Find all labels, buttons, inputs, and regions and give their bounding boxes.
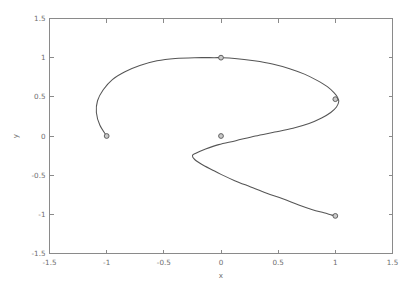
x-tick-label: 0.5 [272,258,283,267]
chart-figure: -1.5-1-0.500.511.5 -1.5-1-0.500.511.5 x … [0,0,415,288]
data-line [96,58,339,216]
y-axis-label: y [11,133,20,138]
x-tick-label: -1 [103,258,110,267]
y-axis-ticks: -1.5-1-0.500.511.5 [31,14,392,258]
y-tick-label: -1 [38,210,45,219]
y-tick-label: 0 [41,132,46,141]
data-point-marker [333,97,338,102]
data-point-marker [104,134,109,139]
data-point-marker [219,55,224,60]
x-axis-label: x [219,271,224,280]
x-tick-label: 0 [219,258,224,267]
y-tick-label: -0.5 [31,171,45,180]
x-tick-label: 1.5 [387,258,398,267]
y-tick-label: 1 [41,53,46,62]
x-tick-label: 1 [333,258,338,267]
data-point-marker [219,134,224,139]
data-markers-group [104,55,337,218]
data-point-marker [333,214,338,219]
plot-canvas: -1.5-1-0.500.511.5 -1.5-1-0.500.511.5 x … [0,0,415,288]
y-tick-label: 0.5 [34,92,45,101]
x-tick-label: -0.5 [157,258,171,267]
y-tick-label: -1.5 [31,249,45,258]
data-series-group [96,58,339,216]
x-tick-label: -1.5 [42,258,56,267]
y-tick-label: 1.5 [34,14,45,23]
